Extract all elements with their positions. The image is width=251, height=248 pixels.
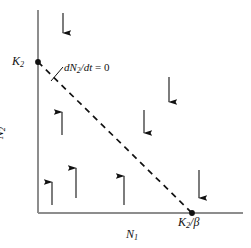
y-axis-label-sub: 2 [0, 127, 7, 131]
vector-field-group [52, 13, 199, 205]
y-intercept-dot [35, 59, 41, 65]
x-intercept-label: K2/β [178, 216, 199, 230]
figure-canvas [0, 0, 251, 248]
nullcline-label-equals: = 0 [92, 61, 109, 73]
phase-plane-figure: K2 K2/β dN2/dt = 0 N1 N2 [0, 0, 251, 248]
annotation-leader-line [51, 67, 63, 81]
x-intercept-label-denominator: /β [190, 215, 199, 229]
y-axis-label-text: N [0, 131, 6, 139]
axes-group [38, 10, 243, 213]
nullcline-label-tail: /dt [81, 61, 93, 73]
y-axis-label: N2 [0, 127, 7, 139]
nullcline-label-lead: dN [64, 61, 77, 73]
y-intercept-label-sub: 2 [20, 60, 24, 69]
x-axis-label-sub: 1 [134, 233, 138, 242]
nullcline-group [35, 59, 195, 216]
x-intercept-label-text: K [178, 215, 186, 229]
y-intercept-label: K2 [12, 55, 24, 69]
x-axis-label: N1 [126, 228, 138, 242]
y-intercept-label-text: K [12, 54, 20, 68]
x-axis-label-text: N [126, 227, 134, 241]
nullcline-equation-label: dN2/dt = 0 [64, 62, 109, 74]
